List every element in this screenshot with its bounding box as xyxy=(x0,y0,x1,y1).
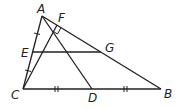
label-d: D xyxy=(88,91,97,105)
label-b: B xyxy=(164,87,172,101)
label-a: A xyxy=(36,2,45,16)
label-e: E xyxy=(21,46,29,60)
label-c: C xyxy=(11,88,20,102)
triangle-diagram: A F E G C D B xyxy=(0,0,177,108)
label-g: G xyxy=(105,41,114,55)
label-f: F xyxy=(58,11,66,25)
